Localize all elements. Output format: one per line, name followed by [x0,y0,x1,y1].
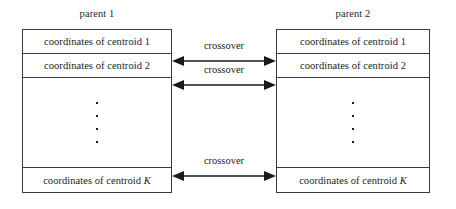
parent-2-gene-label-2: coordinates of centroid 2 [300,60,406,71]
ellipsis-dot [352,102,354,104]
parent-2-ellipsis-row [277,78,429,168]
parent-2-chromosome: coordinates of centroid 1 coordinates of… [276,29,430,193]
parent-2-gene-label-1: coordinates of centroid 1 [300,36,406,47]
crossover-label-1: crossover [172,40,276,51]
parent-2-gene-row-1: coordinates of centroid 1 [277,30,429,54]
parent-1-ellipsis-row [23,78,171,168]
crossover-connector-2: crossover [172,65,276,91]
crossover-connector-3: crossover [172,156,276,182]
ellipsis-dot [96,102,98,104]
ellipsis-dot [96,141,98,143]
parent-2-gene-index-k: K [400,175,407,186]
parent-1-chromosome: coordinates of centroid 1 coordinates of… [22,29,172,193]
crossover-arrow-icon [172,170,276,182]
parent-2-vertical-ellipsis [352,102,354,143]
parent-1-gene-label-1: coordinates of centroid 1 [44,36,150,47]
ellipsis-dot [352,115,354,117]
ellipsis-dot [352,141,354,143]
parent-2-gene-row-k: coordinates of centroid K [277,168,429,192]
parent-2-gene-label-k: coordinates of centroid K [299,175,407,186]
ellipsis-dot [352,128,354,130]
parent-1-gene-index-k: K [144,175,151,186]
parent-2-caption: parent 2 [276,8,430,19]
parent-1-gene-label-2: coordinates of centroid 2 [44,60,150,71]
parent-1-gene-row-k: coordinates of centroid K [23,168,171,192]
diagram-canvas: parent 1 parent 2 coordinates of centroi… [0,0,456,209]
crossover-arrow-icon [172,79,276,91]
parent-1-gene-label-k-text: coordinates of centroid [43,175,144,186]
crossover-label-3: crossover [172,155,276,166]
parent-2-gene-label-k-text: coordinates of centroid [299,175,400,186]
parent-1-vertical-ellipsis [96,102,98,143]
ellipsis-dot [96,128,98,130]
parent-1-gene-label-k: coordinates of centroid K [43,175,151,186]
parent-1-caption: parent 1 [22,8,172,19]
crossover-label-2: crossover [172,64,276,75]
parent-1-gene-row-2: coordinates of centroid 2 [23,54,171,78]
ellipsis-dot [96,115,98,117]
parent-2-gene-row-2: coordinates of centroid 2 [277,54,429,78]
parent-1-gene-row-1: coordinates of centroid 1 [23,30,171,54]
